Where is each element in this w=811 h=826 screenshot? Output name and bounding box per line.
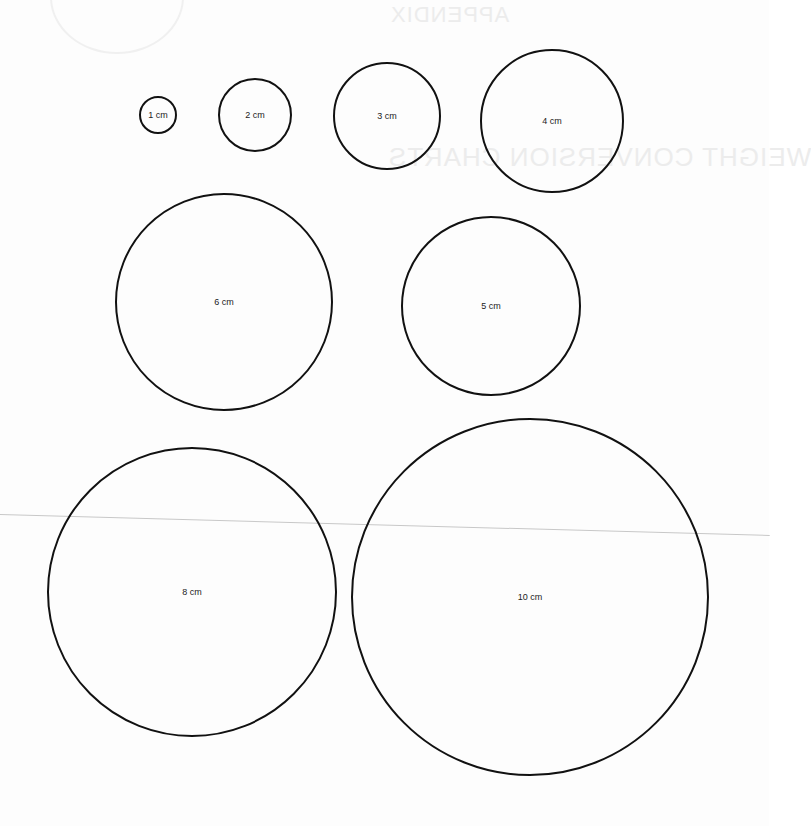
circle-10cm: 10 cm	[351, 418, 709, 776]
bleed-through-appendix-text: APPENDIX	[390, 2, 509, 28]
circle-label: 10 cm	[518, 592, 543, 602]
circle-3cm: 3 cm	[333, 62, 441, 170]
circle-4cm: 4 cm	[480, 49, 624, 193]
circle-label: 1 cm	[148, 110, 168, 120]
circle-label: 2 cm	[245, 110, 265, 120]
circle-8cm: 8 cm	[47, 447, 337, 737]
circle-label: 6 cm	[214, 297, 234, 307]
circle-1cm: 1 cm	[139, 96, 177, 134]
bleed-through-logo-arc	[50, 0, 184, 54]
circle-label: 3 cm	[377, 111, 397, 121]
circle-2cm: 2 cm	[218, 78, 292, 152]
circle-label: 5 cm	[481, 301, 501, 311]
circle-label: 4 cm	[542, 116, 562, 126]
circle-5cm: 5 cm	[401, 216, 581, 396]
circle-label: 8 cm	[182, 587, 202, 597]
circle-6cm: 6 cm	[115, 193, 333, 411]
